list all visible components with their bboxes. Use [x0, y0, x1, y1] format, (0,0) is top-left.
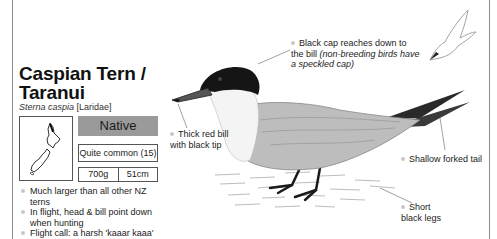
- annotation-bill: Thick red bill with black tip: [170, 129, 230, 150]
- annotation-tail: Shallow forked tail: [401, 154, 491, 165]
- bullet-icon: [401, 157, 405, 161]
- tern-flight-silhouette: [420, 2, 480, 72]
- bullet-icon: [291, 41, 295, 45]
- annotation-cap: Black cap reaches down to the bill (non-…: [291, 38, 421, 70]
- annotation-legs: Short black legs: [401, 202, 446, 223]
- bullet-icon: [401, 205, 405, 209]
- bullet-icon: [170, 132, 174, 136]
